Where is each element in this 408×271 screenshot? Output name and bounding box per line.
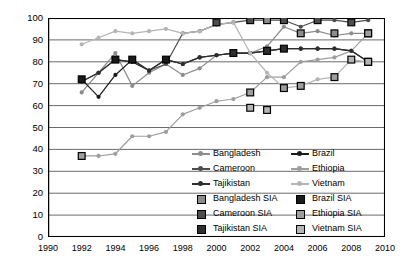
series-point: [96, 36, 100, 40]
sia-marker: [297, 82, 304, 89]
legend-item-bangladesh-sia: Bangladesh SIA: [192, 191, 291, 206]
legend-square-swatch-icon: [192, 224, 210, 233]
legend-label: Cameroon: [213, 164, 255, 173]
y-tick-label: 40: [21, 144, 43, 153]
legend-line-swatch-icon: [192, 179, 210, 188]
sia-marker: [78, 76, 85, 83]
legend-square-swatch-icon: [192, 194, 210, 203]
series-point: [332, 18, 336, 22]
legend-item-bangladesh: Bangladesh: [192, 146, 291, 161]
sia-marker: [264, 18, 271, 24]
sia-marker: [348, 56, 355, 63]
legend-label: Cameroon SIA: [213, 209, 272, 218]
series-point: [214, 99, 218, 103]
legend-item-cameroon-sia: Cameroon SIA: [192, 206, 291, 221]
series-point: [198, 66, 202, 70]
series-point: [181, 31, 185, 35]
x-tick-label: 2008: [336, 244, 366, 253]
series-point: [231, 20, 235, 24]
sia-marker: [365, 30, 372, 37]
legend-square-swatch-icon: [291, 194, 309, 203]
legend-item-brazil-sia: Brazil SIA: [291, 191, 390, 206]
sia-marker: [230, 50, 237, 57]
series-point: [316, 29, 320, 33]
series-point: [113, 73, 117, 77]
series-point: [366, 18, 370, 22]
y-tick-label: 70: [21, 79, 43, 88]
series-point: [349, 49, 353, 53]
series-point: [96, 154, 100, 158]
x-tick-label: 2000: [202, 244, 232, 253]
sia-marker: [281, 18, 288, 24]
series-point: [316, 47, 320, 51]
legend-item-ethiopia-sia: Ethiopia SIA: [291, 206, 390, 221]
x-tick-label: 2010: [370, 244, 400, 253]
series-point: [332, 47, 336, 51]
sia-marker: [129, 56, 136, 63]
series-point: [147, 68, 151, 72]
series-point: [181, 73, 185, 77]
y-tick-label: 0: [21, 232, 43, 241]
series-point: [96, 95, 100, 99]
sia-marker: [314, 18, 321, 24]
y-tick-label: 80: [21, 57, 43, 66]
legend-row: BangladeshBrazil: [192, 146, 390, 161]
sia-marker: [348, 19, 355, 26]
legend-item-tajikistan: Tajikistan: [192, 176, 291, 191]
sia-marker: [331, 74, 338, 81]
legend-label: Bangladesh SIA: [213, 194, 278, 203]
legend-label: Vietnam SIA: [312, 224, 362, 233]
series-point: [316, 77, 320, 81]
sia-marker: [163, 56, 170, 63]
legend-line-swatch-icon: [192, 164, 210, 173]
x-tick-label: 1992: [67, 244, 97, 253]
sia-marker: [78, 153, 85, 160]
sia-marker: [247, 89, 254, 96]
legend-line-swatch-icon: [291, 164, 309, 173]
series-point: [147, 29, 151, 33]
series-point: [113, 152, 117, 156]
figure-caption: [6, 263, 402, 271]
legend-row: Bangladesh SIABrazil SIA: [192, 191, 390, 206]
legend-label: Tajikistan: [213, 179, 250, 188]
series-line: [82, 27, 368, 93]
x-tick-label: 2004: [269, 244, 299, 253]
series-point: [299, 47, 303, 51]
sia-marker: [264, 107, 271, 114]
legend-line-swatch-icon: [291, 179, 309, 188]
series-point: [231, 97, 235, 101]
series-point: [130, 134, 134, 138]
legend-row: Cameroon SIAEthiopia SIA: [192, 206, 390, 221]
legend-label: Vietnam: [312, 179, 345, 188]
y-tick-label: 20: [21, 188, 43, 197]
legend-item-ethiopia: Ethiopia: [291, 161, 390, 176]
series-point: [349, 31, 353, 35]
series-point: [198, 55, 202, 59]
x-tick-label: 1994: [100, 244, 130, 253]
series-point: [130, 31, 134, 35]
series-point: [164, 130, 168, 134]
sia-marker: [281, 45, 288, 52]
sia-marker: [365, 58, 372, 65]
y-tick-label: 30: [21, 166, 43, 175]
chart-legend: BangladeshBrazilCameroonEthiopiaTajikist…: [192, 146, 390, 236]
sia-marker: [331, 30, 338, 37]
series-point: [282, 25, 286, 29]
series-point: [80, 90, 84, 94]
legend-label: Bangladesh: [213, 149, 261, 158]
series-point: [198, 29, 202, 33]
sia-marker: [264, 47, 271, 54]
legend-square-swatch-icon: [192, 209, 210, 218]
legend-line-swatch-icon: [192, 149, 210, 158]
series-point: [96, 71, 100, 75]
series-point: [265, 75, 269, 79]
series-point: [316, 58, 320, 62]
legend-label: Ethiopia SIA: [312, 209, 362, 218]
series-point: [214, 53, 218, 57]
legend-row: CameroonEthiopia: [192, 161, 390, 176]
legend-item-tajikistan-sia: Tajikistan SIA: [192, 221, 291, 236]
series-point: [130, 84, 134, 88]
series-line: [82, 49, 368, 97]
legend-line-swatch-icon: [291, 149, 309, 158]
legend-row: Tajikistan SIAVietnam SIA: [192, 221, 390, 236]
